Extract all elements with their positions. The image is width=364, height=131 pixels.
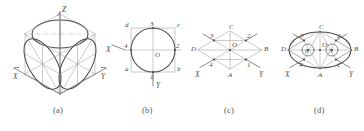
- panel-d-axis-label-x: X: [284, 70, 290, 79]
- point-4-marker: [130, 49, 132, 51]
- panel-b-label-2: 2: [176, 42, 180, 50]
- caption-a: (a): [53, 105, 63, 115]
- panel-d-vertex-c: C: [319, 23, 324, 31]
- caption-b: (b): [142, 105, 153, 115]
- panel-d-centre-6: 6: [305, 47, 309, 55]
- panel-c-vertex-c: C: [229, 23, 234, 31]
- panel-b-centre-o: O: [155, 51, 160, 59]
- panel-b-label-3: 3: [149, 20, 154, 28]
- panel-d-axis-label-y: Y: [349, 70, 354, 79]
- panel-d-label-2: 2: [337, 32, 341, 40]
- panel-c-vertex-a: A: [227, 71, 233, 79]
- caption-d: (d): [314, 105, 325, 115]
- panel-b-label-1: 1: [150, 73, 154, 81]
- panel-d-label-4: 4: [299, 61, 303, 69]
- panel-b-label-4: 4: [124, 42, 128, 50]
- panel-c-vertex-d: D: [190, 45, 196, 53]
- panel-c-centre-marker: [229, 49, 231, 51]
- panel-d-vertex-b: B: [354, 45, 359, 53]
- panel-c-vertex-b: B: [264, 45, 269, 53]
- panel-d-label-1: 1: [337, 61, 341, 69]
- panel-c-label-3: 3: [209, 32, 214, 40]
- panel-c-point-4-marker: [213, 58, 215, 60]
- panel-a-axis-label-z: Z: [62, 5, 67, 14]
- caption-c: (c): [224, 105, 234, 115]
- panel-c-axis-label-x: X: [194, 70, 200, 79]
- panel-c-label-4: 4: [209, 61, 213, 69]
- panel-c-label-1: 1: [247, 61, 251, 69]
- panel-a-axis-label-x: X: [12, 72, 18, 81]
- panel-b-group: 3 2 1 4 d c a b O X Y: [105, 20, 181, 90]
- panel-b-corner-a: a: [125, 65, 129, 73]
- panel-d-centre-o: O: [322, 41, 327, 49]
- figure-sheet: .thick{stroke:#4a4a4a;stroke-width:1.05;…: [0, 0, 364, 131]
- panel-c-axis-label-y: Y: [259, 70, 264, 79]
- panel-a-axes: [14, 12, 106, 94]
- panel-d-vertex-d: D: [280, 45, 286, 53]
- panel-b-axis-label-y: Y: [156, 81, 161, 90]
- panel-d-label-3: 3: [299, 32, 304, 40]
- panel-b-axis-label-x: X: [105, 45, 111, 54]
- panel-d-group: C B A D 3 2 1 4 O 5 6 X Y: [280, 23, 359, 79]
- panel-c-group: C B A D 3 2 1 4 O X Y: [190, 23, 269, 79]
- panel-a-group: Z X Y: [12, 5, 106, 95]
- panel-c-label-2: 2: [247, 32, 251, 40]
- panel-d-centre-marker: [319, 49, 321, 51]
- panel-d-vertex-a: A: [317, 71, 323, 79]
- panel-c-centre-o: O: [232, 41, 237, 49]
- panel-b-corner-b: b: [177, 65, 181, 73]
- panel-d-centre-5: 5: [329, 47, 333, 55]
- panel-b-corner-d: d: [125, 21, 129, 29]
- panel-d-point-4-marker: [303, 58, 305, 60]
- panel-a-axis-label-y: Y: [101, 72, 106, 81]
- panel-b-corner-c: c: [177, 21, 181, 29]
